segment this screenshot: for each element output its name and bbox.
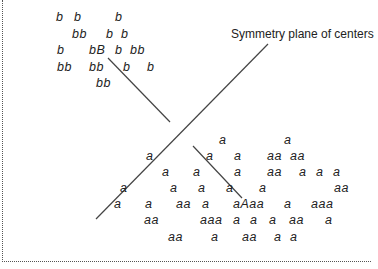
a-letter-group: a: [316, 165, 323, 179]
a-letter-group: a: [234, 149, 241, 163]
a-letter-group: aAaa: [233, 197, 264, 211]
a-letter-group: aa: [290, 149, 305, 163]
a-letter-group: a: [198, 181, 205, 195]
b-letter-group: b: [115, 43, 122, 57]
b-letter-group: bb: [57, 60, 72, 74]
symmetry-plane-caption: Symmetry plane of centers: [231, 27, 374, 41]
a-letter-group: a: [211, 230, 218, 244]
a-letter-group: a: [333, 165, 340, 179]
a-letter-group: a: [120, 181, 127, 195]
a-letter-group: a: [259, 181, 266, 195]
a-letter-group: a: [114, 197, 121, 211]
a-letter-group: a: [269, 213, 276, 227]
b-letter-group: bb: [89, 60, 104, 74]
b-letter-group: b: [115, 10, 122, 24]
a-letter-group: a: [234, 165, 241, 179]
a-letter-group: a: [233, 213, 240, 227]
b-letter-group: b: [74, 10, 81, 24]
b-letter-group: b: [106, 27, 113, 41]
a-letter-group: a: [170, 181, 177, 195]
a-letter-group: a: [274, 230, 281, 244]
b-letter-group: bb: [96, 76, 111, 90]
a-letter-group: a: [146, 149, 153, 163]
diagram-canvas: bbbbbbbbbBbbbbbbbbbbb aaaaaaaaaaaaaaaaaa…: [0, 0, 378, 269]
a-letter-group: aa: [267, 149, 282, 163]
a-letter-group: a: [162, 165, 169, 179]
a-letter-group: aa: [144, 213, 159, 227]
a-letter-group: a: [284, 197, 291, 211]
a-letter-group: a: [206, 149, 213, 163]
b-cluster-divider-line: [108, 58, 170, 122]
b-letter-group: b: [121, 27, 128, 41]
a-letter-group: aa: [176, 197, 191, 211]
b-letter-group: bb: [72, 27, 87, 41]
a-letter-group: a: [145, 197, 152, 211]
a-letter-group: a: [250, 213, 257, 227]
b-letter-group: b: [57, 43, 64, 57]
a-letter-group: a: [325, 213, 332, 227]
a-letter-group: a: [226, 181, 233, 195]
a-letter-group: aaa: [200, 213, 222, 227]
a-letter-group: a: [219, 133, 226, 147]
b-letter-group: b: [147, 60, 154, 74]
a-letter-group: aa: [267, 165, 282, 179]
a-letter-group: a: [290, 230, 297, 244]
b-letter-group: b: [123, 60, 130, 74]
a-letter-group: a: [284, 133, 291, 147]
a-letter-group: aa: [289, 213, 304, 227]
a-letter-group: aaa: [311, 197, 333, 211]
b-letter-group: bb: [130, 43, 145, 57]
b-letter-group: bB: [89, 43, 105, 57]
a-letter-group: aa: [168, 230, 183, 244]
a-letter-group: aa: [334, 181, 349, 195]
a-letter-group: a: [193, 165, 200, 179]
b-letter-group: b: [56, 10, 63, 24]
a-letter-group: a: [299, 165, 306, 179]
a-letter-group: a: [202, 197, 209, 211]
a-letter-group: aa: [242, 230, 257, 244]
